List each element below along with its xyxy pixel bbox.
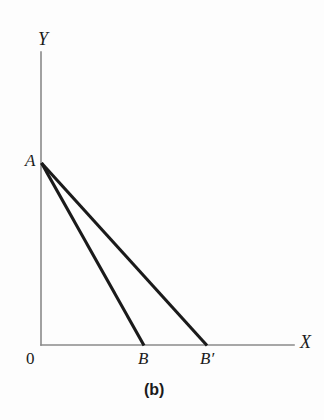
budget-line-ab-prime [42,163,208,346]
budget-line-chart [0,0,324,420]
origin-label: 0 [26,350,35,367]
y-axis-label: Y [38,30,48,48]
x-axis-label: X [300,333,311,351]
figure-caption: (b) [144,382,164,398]
budget-line-ab [42,163,145,346]
point-label-b-prime: B′ [200,350,214,367]
point-label-b: B [138,350,148,367]
point-label-a: A [25,152,35,169]
figure-container: Y X A 0 B B′ (b) [0,0,324,420]
